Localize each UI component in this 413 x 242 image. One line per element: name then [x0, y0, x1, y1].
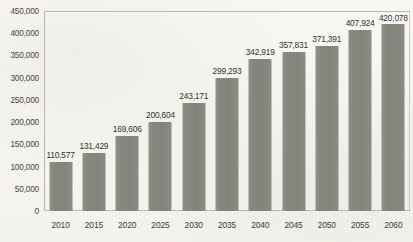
- bar[interactable]: [349, 30, 372, 211]
- y-axis-tick-label: 350,000: [10, 51, 39, 60]
- bar-value-label: 420,078: [379, 13, 408, 23]
- x-axis-tick-label: 2050: [318, 220, 336, 230]
- bar-value-label: 342,919: [246, 47, 275, 57]
- bar-value-label: 299,293: [213, 66, 242, 76]
- x-axis-tick-label: 2025: [151, 220, 169, 230]
- bar[interactable]: [249, 59, 272, 211]
- bar-value-label: 371,391: [312, 34, 341, 44]
- y-axis-tick-label: 100,000: [10, 162, 39, 171]
- x-axis-tick-label: 2060: [384, 220, 402, 230]
- y-axis-tick-label: 150,000: [10, 140, 39, 149]
- y-axis-tick-label: 300,000: [10, 73, 39, 82]
- bar-slot: 200,604: [144, 11, 177, 211]
- x-axis-tick-label: 2010: [52, 220, 70, 230]
- y-axis-tick-label: 250,000: [10, 95, 39, 104]
- bar-value-label: 243,171: [179, 91, 208, 101]
- bar-slot: 420,078: [377, 11, 410, 211]
- bar-slot: 371,391: [310, 11, 343, 211]
- bar[interactable]: [215, 78, 238, 211]
- bar-value-label: 131,429: [79, 141, 108, 151]
- bar[interactable]: [282, 52, 305, 211]
- bar-value-label: 200,604: [146, 110, 175, 120]
- bar[interactable]: [182, 103, 205, 211]
- x-axis-tick-label: 2035: [218, 220, 236, 230]
- bar-slot: 243,171: [177, 11, 210, 211]
- y-axis: 050,000100,000150,000200,000250,000300,0…: [0, 11, 43, 211]
- y-axis-tick-label: 0: [35, 207, 39, 216]
- y-axis-tick-label: 450,000: [10, 7, 39, 16]
- bar-value-label: 110,577: [46, 150, 74, 160]
- bar-slot: 299,293: [210, 11, 243, 211]
- x-axis-tick-label: 2040: [251, 220, 269, 230]
- bar-slot: 169,606: [111, 11, 144, 211]
- x-axis-tick-label: 2045: [284, 220, 302, 230]
- x-axis: 2010201520202025203020352040204520502055…: [44, 214, 410, 236]
- bar-value-label: 357,831: [279, 40, 308, 50]
- y-axis-tick-label: 200,000: [10, 118, 39, 127]
- x-axis-tick-label: 2055: [351, 220, 369, 230]
- bars-layer: 110,577131,429169,606200,604243,171299,2…: [44, 11, 410, 211]
- bar-chart: 050,000100,000150,000200,000250,000300,0…: [0, 0, 413, 242]
- bar-value-label: 407,924: [346, 18, 375, 28]
- bar[interactable]: [315, 46, 338, 211]
- bar-value-label: 169,606: [113, 124, 142, 134]
- bar[interactable]: [82, 153, 105, 211]
- y-axis-tick-label: 50,000: [15, 184, 39, 193]
- bar-slot: 131,429: [77, 11, 110, 211]
- bar-slot: 357,831: [277, 11, 310, 211]
- bar[interactable]: [49, 162, 72, 211]
- bar-slot: 342,919: [244, 11, 277, 211]
- bar-slot: 110,577: [44, 11, 77, 211]
- bar[interactable]: [382, 24, 405, 211]
- y-axis-tick-label: 400,000: [10, 29, 39, 38]
- x-axis-tick-label: 2015: [85, 220, 103, 230]
- bar[interactable]: [149, 122, 172, 211]
- x-axis-tick-label: 2030: [185, 220, 203, 230]
- x-axis-tick-label: 2020: [118, 220, 136, 230]
- bar[interactable]: [116, 136, 139, 211]
- bar-slot: 407,924: [343, 11, 376, 211]
